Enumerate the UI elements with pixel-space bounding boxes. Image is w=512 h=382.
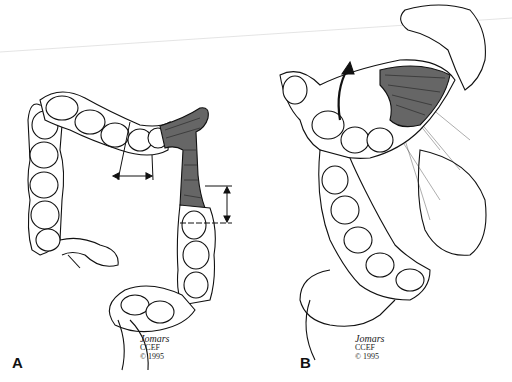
colon-illustration [0, 0, 512, 382]
signature-a: Jomars CCEF © 1995 [140, 334, 169, 361]
panel-b-drawing [280, 5, 486, 360]
signature-name: Jomars [355, 334, 384, 343]
signature-b: Jomars CCEF © 1995 [355, 334, 384, 361]
signature-org: CCEF [355, 343, 384, 352]
panel-label-b: B [300, 354, 311, 371]
signature-org: CCEF [140, 343, 169, 352]
panel-a-drawing [28, 92, 232, 370]
signature-name: Jomars [140, 334, 169, 343]
panel-label-a: A [12, 354, 23, 371]
signature-copyright: © 1995 [140, 352, 169, 361]
signature-copyright: © 1995 [355, 352, 384, 361]
